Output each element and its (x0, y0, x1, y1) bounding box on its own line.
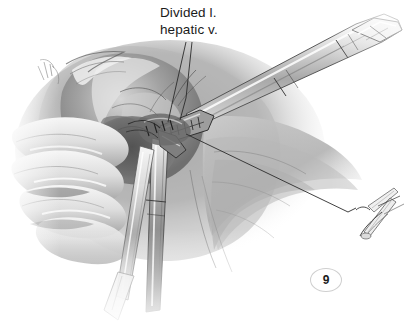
divided-hepatic-vein-label: Divided l. hepatic v. (160, 5, 218, 38)
surgical-figure: Divided l. hepatic v. 9 (0, 0, 412, 334)
label-line-1: Divided l. (160, 5, 217, 20)
figure-number: 9 (323, 273, 330, 287)
surgical-illustration (0, 0, 412, 334)
figure-number-badge: 9 (310, 268, 342, 292)
label-line-2: hepatic v. (160, 22, 218, 39)
